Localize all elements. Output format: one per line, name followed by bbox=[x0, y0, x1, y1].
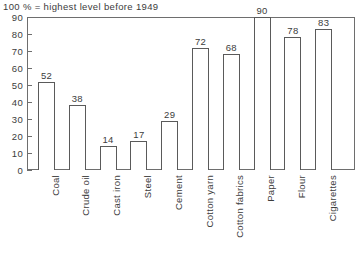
y-tick-mark bbox=[27, 17, 32, 18]
bar: 14 bbox=[100, 146, 117, 170]
x-axis-category-label: Steel bbox=[143, 175, 153, 198]
y-tick-mark bbox=[27, 68, 32, 69]
x-axis-category-label: Cotton yarn bbox=[205, 175, 215, 227]
bar: 68 bbox=[223, 54, 240, 170]
bar-value-label: 14 bbox=[103, 134, 114, 145]
y-tick-label: 40 bbox=[12, 97, 23, 108]
y-tick-mark bbox=[27, 153, 32, 154]
x-axis-category-label: Crude oil bbox=[81, 175, 91, 216]
y-tick-label: 70 bbox=[12, 46, 23, 57]
bar: 72 bbox=[192, 48, 209, 170]
bar: 29 bbox=[161, 121, 178, 170]
x-axis-category-label: Cigarettes bbox=[328, 175, 338, 221]
y-tick-mark bbox=[27, 102, 32, 103]
bar-value-label: 78 bbox=[287, 25, 298, 36]
x-axis-category-label: Flour bbox=[297, 175, 307, 198]
bar-value-label: 90 bbox=[257, 5, 268, 16]
bar-chart: 100 % = highest level before 1949 010203… bbox=[0, 0, 359, 260]
y-tick-mark bbox=[27, 119, 32, 120]
x-axis-category-label: Paper bbox=[266, 175, 276, 202]
bar-value-label: 72 bbox=[195, 36, 206, 47]
x-axis-category-label: Cement bbox=[174, 175, 184, 210]
plot-area: 0102030405060708090 52381417297268907883 bbox=[27, 17, 355, 170]
y-tick-label: 80 bbox=[12, 29, 23, 40]
y-tick-label: 90 bbox=[12, 12, 23, 23]
y-tick-label: 20 bbox=[12, 131, 23, 142]
y-tick-label: 0 bbox=[17, 165, 23, 176]
bar-value-label: 29 bbox=[164, 109, 175, 120]
y-tick-mark bbox=[27, 85, 32, 86]
bar: 38 bbox=[69, 105, 86, 170]
bar-value-label: 68 bbox=[226, 42, 237, 53]
y-tick-label: 50 bbox=[12, 80, 23, 91]
bar-value-label: 17 bbox=[133, 129, 144, 140]
y-tick-mark bbox=[27, 136, 32, 137]
bar: 52 bbox=[38, 82, 55, 170]
y-tick-label: 10 bbox=[12, 148, 23, 159]
y-tick-label: 60 bbox=[12, 63, 23, 74]
y-tick-mark bbox=[27, 34, 32, 35]
x-axis-category-label: Cast iron bbox=[112, 175, 122, 216]
bar: 17 bbox=[130, 141, 147, 170]
chart-caption: 100 % = highest level before 1949 bbox=[3, 1, 158, 12]
y-tick-mark bbox=[27, 51, 32, 52]
y-tick-mark bbox=[27, 170, 32, 171]
bar-value-label: 83 bbox=[318, 17, 329, 28]
bar-value-label: 52 bbox=[41, 70, 52, 81]
bar: 83 bbox=[315, 29, 332, 170]
bar: 78 bbox=[284, 37, 301, 170]
bar: 90 bbox=[254, 17, 271, 170]
x-axis-category-label: Coal bbox=[51, 175, 61, 196]
x-axis-category-label: Cotton fabrics bbox=[235, 175, 245, 238]
y-tick-label: 30 bbox=[12, 114, 23, 125]
bar-value-label: 38 bbox=[72, 93, 83, 104]
